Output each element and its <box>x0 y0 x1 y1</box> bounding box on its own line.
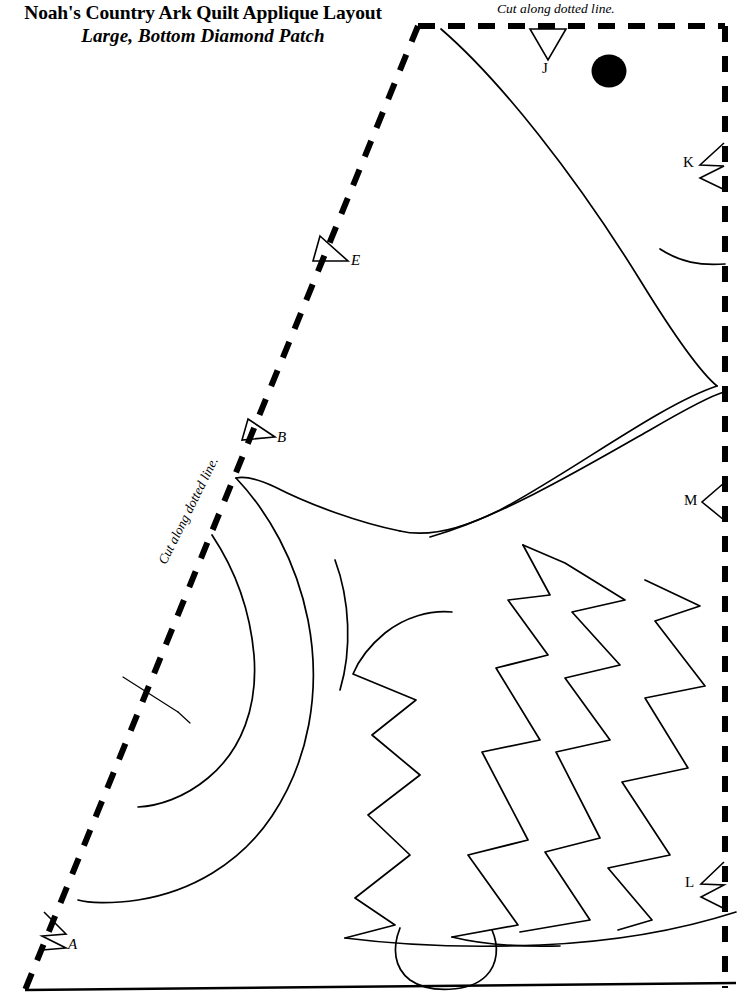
tree-center-right-outline <box>520 545 625 932</box>
marker-label-e: E <box>351 252 360 269</box>
body-back-curve <box>441 29 717 386</box>
crescent-tick-line <box>123 677 178 712</box>
marker-b-triangle-right-icon <box>242 419 275 440</box>
adjacent-piece-arc <box>335 560 348 690</box>
marker-j-triangle-down-icon <box>530 29 566 60</box>
crescent-tick-line-end <box>178 712 190 723</box>
marker-label-a: A <box>68 936 77 953</box>
marker-m-triangle-right-icon <box>702 483 724 520</box>
tree-center-outline <box>452 545 550 937</box>
sun-dot-shape <box>592 55 627 88</box>
marker-l-zigzag-right-icon <box>701 862 725 909</box>
marker-label-k: K <box>683 154 694 171</box>
tree-left-outline <box>345 612 452 938</box>
marker-k-zigzag-right-icon <box>700 143 725 190</box>
crescent-outer-curve <box>78 478 313 903</box>
body-ear-curve <box>660 249 725 264</box>
cut-note-top: Cut along dotted line. <box>497 1 615 17</box>
tree-trunk-base <box>395 928 496 989</box>
marker-label-m: M <box>684 492 697 509</box>
body-belly-curve <box>400 386 717 533</box>
quilt-pattern-page: Noah's Country Ark Quilt Applique Layout… <box>0 0 743 1004</box>
marker-label-b: B <box>277 429 286 446</box>
diagonal-dashed-cut-line <box>25 26 418 990</box>
body-underside-curve <box>236 477 400 531</box>
pattern-drawing <box>0 0 743 1004</box>
bottom-solid-border <box>25 983 736 990</box>
marker-label-l: L <box>685 874 694 891</box>
marker-label-j: J <box>542 60 548 77</box>
